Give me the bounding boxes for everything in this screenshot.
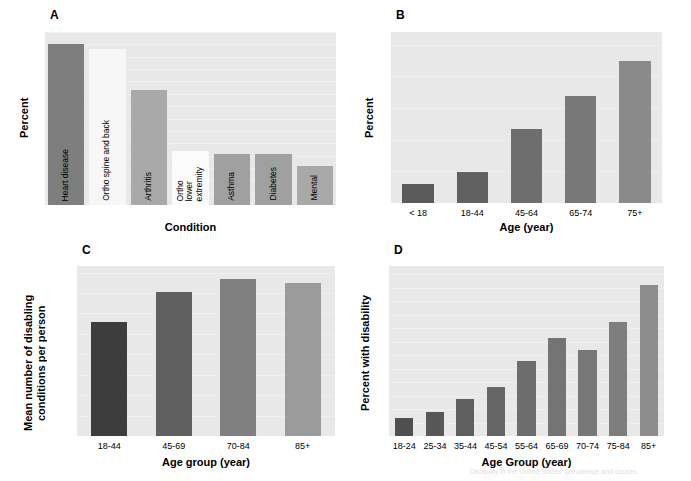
gridline bbox=[391, 45, 662, 46]
bar-label: Heart disease bbox=[61, 149, 71, 201]
x-axis-tick-label: 18-44 bbox=[445, 208, 499, 218]
gridline bbox=[389, 315, 664, 316]
gridline bbox=[45, 32, 336, 33]
x-axis-tick-label: 35-44 bbox=[450, 441, 481, 451]
gridline bbox=[389, 274, 664, 275]
panel-a-x-axis-label: Condition bbox=[45, 221, 336, 233]
x-axis-tick-label: < 18 bbox=[391, 208, 445, 218]
bar: Ortho spine and back bbox=[89, 49, 126, 205]
bar bbox=[156, 292, 192, 436]
panel-c-y-axis-label-line1: Mean number of disabling bbox=[22, 295, 34, 431]
panel-b-plot-area bbox=[391, 32, 662, 203]
bar: Asthma bbox=[214, 154, 251, 205]
bar bbox=[565, 96, 596, 203]
panel-c-y-axis-label: Mean number of disabling conditions per … bbox=[22, 288, 48, 438]
x-axis-tick-label: 65-74 bbox=[554, 208, 608, 218]
bar bbox=[91, 322, 127, 436]
panel-c-x-axis-label: Age group (year) bbox=[77, 456, 335, 468]
bar-label: Ortho spine and back bbox=[103, 120, 113, 201]
x-axis-tick-label: 45-69 bbox=[142, 441, 207, 451]
bar-label: Diabetes bbox=[269, 167, 279, 201]
bar: Diabetes bbox=[255, 154, 292, 205]
bar: Heart disease bbox=[48, 44, 85, 205]
x-axis-tick-label: 45-54 bbox=[481, 441, 512, 451]
bar bbox=[220, 279, 256, 436]
gridline bbox=[45, 44, 336, 45]
gridline bbox=[389, 301, 664, 302]
bar-label: Arthritis bbox=[144, 172, 154, 201]
x-axis-tick-label: 70-74 bbox=[572, 441, 603, 451]
bar bbox=[457, 172, 488, 203]
scan-artifact: Disability in the United States: prevale… bbox=[470, 468, 685, 477]
bar bbox=[456, 399, 474, 436]
bar: Ortho lower extremity bbox=[172, 151, 209, 205]
x-axis-tick-label: 18-44 bbox=[77, 441, 142, 451]
panel-b-letter: B bbox=[396, 8, 405, 22]
x-axis-tick-label: 18-24 bbox=[389, 441, 420, 451]
bar bbox=[402, 184, 433, 203]
x-axis-tick-label: 75-84 bbox=[603, 441, 634, 451]
panel-c-plot-area bbox=[77, 266, 335, 436]
x-axis-tick-label: 85+ bbox=[271, 441, 336, 451]
bar bbox=[609, 322, 627, 436]
bar: Mental bbox=[297, 166, 334, 206]
x-axis-tick-label: 65-69 bbox=[542, 441, 573, 451]
panel-d-plot-area bbox=[389, 266, 664, 436]
bar bbox=[487, 387, 505, 436]
x-axis-tick-label: 25-34 bbox=[420, 441, 451, 451]
bar bbox=[517, 361, 535, 436]
bar bbox=[548, 338, 566, 436]
panel-d-x-axis-label: Age Group (year) bbox=[389, 456, 664, 468]
x-axis-tick-label: 55-64 bbox=[511, 441, 542, 451]
gridline bbox=[389, 288, 664, 289]
panel-c-y-axis-label-line2: conditions per person bbox=[35, 305, 47, 421]
x-axis-tick-label: 70-84 bbox=[206, 441, 271, 451]
bar bbox=[285, 283, 321, 436]
bar-label: Mental bbox=[310, 175, 320, 201]
x-axis-tick-label: 45-64 bbox=[499, 208, 553, 218]
bar bbox=[395, 418, 413, 436]
panel-d-letter: D bbox=[394, 243, 403, 257]
panel-a-plot-area: Heart diseaseOrtho spine and backArthrit… bbox=[45, 32, 336, 205]
bar bbox=[511, 129, 542, 203]
gridline bbox=[77, 273, 335, 274]
panel-a-y-axis-label: Percent bbox=[18, 78, 31, 158]
panel-b-y-axis-label: Percent bbox=[363, 78, 376, 158]
x-axis-tick-label: 75+ bbox=[608, 208, 662, 218]
panel-a-letter: A bbox=[50, 8, 59, 22]
panel-b-x-axis-label: Age (year) bbox=[391, 221, 662, 233]
bar bbox=[640, 285, 658, 436]
panel-d-y-axis-label: Percent with disability bbox=[359, 288, 372, 418]
x-axis-tick-label: 85+ bbox=[633, 441, 664, 451]
bar-label: Ortho lower extremity bbox=[176, 167, 205, 201]
bar-label: Asthma bbox=[227, 172, 237, 201]
bar: Arthritis bbox=[131, 90, 168, 205]
panel-c-letter: C bbox=[82, 243, 91, 257]
bar bbox=[426, 412, 444, 436]
bar bbox=[619, 61, 650, 204]
bar bbox=[578, 350, 596, 436]
